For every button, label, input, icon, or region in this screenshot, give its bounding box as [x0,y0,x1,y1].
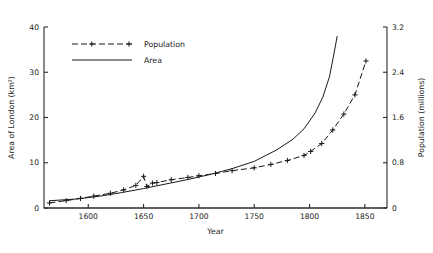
y-axis-left-tick-label: 0 [34,204,39,213]
y-axis-left-title: Area of London (km²) [7,76,16,159]
x-axis-tick-label: 1800 [300,212,319,221]
y-axis-right-tick-label: 0.8 [392,158,404,167]
legend-label-population: Population [144,40,185,49]
y-axis-right-tick-label: 2.4 [392,68,404,77]
y-axis-left-tick-label: 40 [29,23,39,32]
y-axis-right-tick-label: 3.2 [392,23,404,32]
y-axis-left-tick-label: 20 [29,113,39,122]
x-axis-tick-label: 1700 [189,212,208,221]
x-axis-tick-label: 1600 [79,212,98,221]
y-axis-right-title: Population (millions) [417,78,426,158]
x-axis-tick-label: 1750 [245,212,264,221]
legend-label-area: Area [144,56,162,65]
x-axis-tick-label: 1850 [355,212,374,221]
y-axis-right-tick-label: 0 [392,204,397,213]
y-axis-left-tick-label: 10 [29,158,39,167]
x-axis-tick-label: 1650 [134,212,153,221]
chart-canvas: 010203040 00.81.62.43.2 1600165017001750… [0,0,433,253]
chart-figure: 010203040 00.81.62.43.2 1600165017001750… [0,0,433,253]
x-axis-title: Year [206,227,224,236]
y-axis-left-tick-label: 30 [29,68,39,77]
y-axis-right-tick-label: 1.6 [392,113,404,122]
